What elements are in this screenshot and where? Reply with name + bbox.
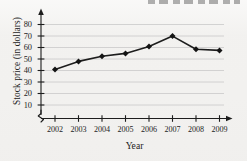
data-point-markers xyxy=(52,33,223,72)
y-axis-arrow-icon xyxy=(38,9,44,16)
chart-screenshot: Stock price (in dollars) Year 10 20 30 4… xyxy=(0,0,247,161)
data-point-2004 xyxy=(99,53,105,59)
data-point-2005 xyxy=(123,50,129,56)
data-point-2007 xyxy=(170,33,176,39)
data-point-2009 xyxy=(217,47,223,53)
plot-area xyxy=(0,0,247,161)
data-point-2002 xyxy=(52,66,58,72)
y-axis xyxy=(38,9,45,116)
data-point-2006 xyxy=(146,44,152,50)
x-axis xyxy=(41,115,233,122)
data-series-line xyxy=(55,36,220,69)
x-axis-arrow-icon xyxy=(226,116,233,122)
axis-break-zigzag-icon xyxy=(38,110,43,122)
